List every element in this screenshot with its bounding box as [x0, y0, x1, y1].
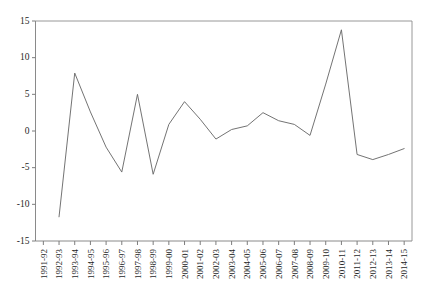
x-tick-label: 2004-05: [242, 249, 252, 279]
line-chart-plot: 151050-5-10-15 1991-921992-931993-941994…: [0, 0, 426, 291]
x-tick-label: 2014-15: [399, 249, 409, 279]
y-tick-label: -5: [22, 162, 30, 172]
x-tick-label: 2007-08: [290, 249, 300, 279]
x-tick-label: 2003-04: [227, 249, 237, 279]
y-tick-label: -15: [17, 236, 30, 246]
x-tick-label: 1998-99: [148, 249, 158, 279]
x-tick-label: 2013-14: [384, 249, 394, 279]
y-tick-label: 5: [25, 89, 30, 99]
plot-frame: [36, 21, 413, 241]
x-tick-label: 2010-11: [337, 249, 347, 279]
x-tick-label: 2008-09: [305, 249, 315, 279]
x-tick-label: 2009-10: [321, 249, 331, 279]
x-tick-label: 2002-03: [211, 249, 221, 279]
x-tick-label: 1995-96: [101, 249, 111, 279]
x-tick-label: 1997-98: [133, 249, 143, 279]
x-tick-label: 2011-12: [352, 249, 362, 279]
x-tick-label: 2006-07: [274, 249, 284, 279]
y-axis-labels: 151050-5-10-15: [17, 16, 30, 246]
data-series-line: [59, 30, 404, 217]
x-tick-label: 2001-02: [195, 249, 205, 279]
x-tick-label: 2005-06: [258, 249, 268, 279]
chart-container: 151050-5-10-15 1991-921992-931993-941994…: [0, 0, 426, 291]
x-tick-label: 1994-95: [86, 249, 96, 279]
x-axis-tick-group: [43, 241, 404, 245]
x-tick-label: 1993-94: [70, 249, 80, 279]
x-tick-label: 1992-93: [54, 249, 64, 279]
x-axis-labels: 1991-921992-931993-941994-951995-961996-…: [39, 249, 410, 279]
y-tick-label: 0: [25, 126, 30, 136]
x-tick-label: 1991-92: [39, 249, 49, 279]
y-tick-label: 10: [20, 52, 30, 62]
x-tick-label: 1996-97: [117, 249, 127, 279]
x-tick-label: 2012-13: [368, 249, 378, 279]
y-axis-tick-group: [32, 21, 36, 241]
y-tick-label: 15: [20, 16, 30, 26]
y-tick-label: -10: [17, 199, 30, 209]
x-tick-label: 2000-01: [180, 249, 190, 279]
x-tick-label: 1999-00: [164, 249, 174, 279]
